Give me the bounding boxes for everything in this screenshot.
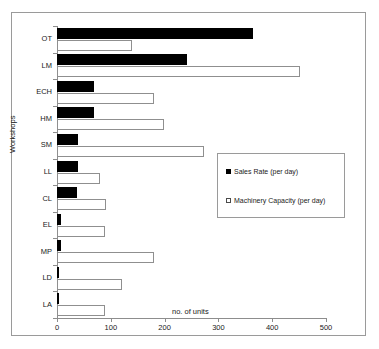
x-axis-tick-label: 400 — [266, 323, 279, 332]
bar-sales-rate — [57, 187, 77, 198]
x-axis-tick-label: 0 — [55, 323, 59, 332]
x-axis-tick — [272, 318, 273, 322]
bar-machinery-capacity — [57, 119, 164, 130]
y-axis-tick-label: LM — [12, 61, 52, 70]
y-axis-tick-label: HM — [12, 114, 52, 123]
x-axis-tick-label: 100 — [105, 323, 118, 332]
bar-sales-rate — [57, 293, 59, 304]
legend-item-sales-rate: Sales Rate (per day) — [226, 168, 298, 175]
bar-machinery-capacity — [57, 199, 106, 210]
y-axis-tick-label: CL — [12, 194, 52, 203]
bar-machinery-capacity — [57, 66, 300, 77]
y-axis-tick-label: MP — [12, 247, 52, 256]
x-axis-tick — [326, 318, 327, 322]
x-axis-tick — [111, 318, 112, 322]
bar-machinery-capacity — [57, 279, 122, 290]
x-axis-tick — [165, 318, 166, 322]
x-axis-tick-label: 200 — [158, 323, 171, 332]
y-axis-tick-label: LL — [12, 167, 52, 176]
y-axis-tick-label: LD — [12, 273, 52, 282]
bar-sales-rate — [57, 134, 78, 145]
y-axis-tick-label: EL — [12, 220, 52, 229]
bar-machinery-capacity — [57, 173, 100, 184]
bar-machinery-capacity — [57, 146, 204, 157]
bar-machinery-capacity — [57, 40, 132, 51]
legend-label-machinery-capacity: Machinery Capacity (per day) — [234, 197, 325, 204]
x-axis-tick — [57, 318, 58, 322]
x-axis-tick — [218, 318, 219, 322]
bar-sales-rate — [57, 81, 94, 92]
bar-sales-rate — [57, 54, 187, 65]
x-axis-tick-label: 500 — [320, 323, 333, 332]
legend-swatch-filled-icon — [226, 169, 231, 174]
y-axis-tick-label: OT — [12, 34, 52, 43]
bar-sales-rate — [57, 28, 253, 39]
bar-sales-rate — [57, 240, 61, 251]
chart-legend: Sales Rate (per day) Machinery Capacity … — [217, 153, 345, 218]
legend-item-machinery-capacity: Machinery Capacity (per day) — [226, 197, 325, 204]
legend-label-sales-rate: Sales Rate (per day) — [234, 168, 298, 175]
bar-sales-rate — [57, 214, 61, 225]
bar-sales-rate — [57, 267, 59, 278]
legend-swatch-open-icon — [226, 198, 231, 203]
y-axis-tick-label: LA — [12, 300, 52, 309]
bar-machinery-capacity — [57, 305, 105, 316]
bar-sales-rate — [57, 107, 94, 118]
chart-figure: Workshops no. of units 0100200300400500 … — [11, 12, 366, 336]
y-axis-tick-label: ECH — [12, 87, 52, 96]
bar-machinery-capacity — [57, 93, 154, 104]
x-axis-line — [57, 318, 327, 319]
bar-sales-rate — [57, 161, 78, 172]
bar-machinery-capacity — [57, 226, 105, 237]
y-axis-tick — [53, 318, 57, 319]
y-axis-tick-label: SM — [12, 140, 52, 149]
bar-machinery-capacity — [57, 252, 154, 263]
x-axis-tick-label: 300 — [212, 323, 225, 332]
